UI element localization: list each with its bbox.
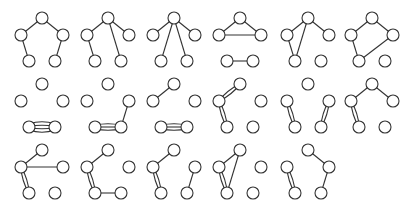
vertex-left xyxy=(81,29,93,41)
graph-10 xyxy=(213,78,267,133)
vertex-right xyxy=(123,29,135,41)
vertex-bottom-right xyxy=(49,121,61,133)
vertex-bottom-right xyxy=(315,121,327,133)
edge-top-bottom-left xyxy=(227,150,240,193)
vertex-bottom-left xyxy=(89,121,101,133)
vertex-bottom-left xyxy=(353,55,365,67)
vertex-bottom-left xyxy=(289,55,301,67)
vertex-top xyxy=(366,78,378,90)
vertex-bottom-right xyxy=(379,55,391,67)
vertex-right xyxy=(123,161,135,173)
vertex-right xyxy=(255,95,267,107)
graph-4 xyxy=(213,12,267,67)
multigraph-grid xyxy=(0,0,413,209)
vertex-left xyxy=(345,95,357,107)
vertex-bottom-left xyxy=(23,55,35,67)
vertex-top xyxy=(168,12,180,24)
vertex-bottom-right xyxy=(247,55,259,67)
graph-11 xyxy=(281,78,335,133)
vertex-bottom-left xyxy=(155,55,167,67)
vertex-bottom-right xyxy=(379,121,391,133)
vertex-left xyxy=(15,95,27,107)
vertex-top xyxy=(102,12,114,24)
vertex-bottom-right xyxy=(247,121,259,133)
vertex-bottom-left xyxy=(221,187,233,199)
graph-7 xyxy=(15,78,69,133)
vertex-left xyxy=(281,95,293,107)
vertex-left xyxy=(15,29,27,41)
vertex-bottom-left xyxy=(155,187,167,199)
vertex-bottom-right xyxy=(181,121,193,133)
graphs-layer xyxy=(15,12,399,199)
graph-1 xyxy=(15,12,69,67)
vertex-bottom-right xyxy=(181,187,193,199)
vertex-right xyxy=(323,95,335,107)
graph-3 xyxy=(147,12,201,67)
graph-14 xyxy=(81,144,135,199)
vertex-right xyxy=(123,95,135,107)
vertex-left xyxy=(81,161,93,173)
vertex-left xyxy=(213,161,225,173)
vertex-left xyxy=(345,29,357,41)
graph-13 xyxy=(15,144,69,199)
vertex-bottom-left xyxy=(23,121,35,133)
vertex-top xyxy=(302,144,314,156)
vertex-top xyxy=(302,12,314,24)
vertex-right xyxy=(387,95,399,107)
graph-15 xyxy=(147,144,201,199)
graph-12 xyxy=(345,78,399,133)
vertex-right xyxy=(189,161,201,173)
edge-top-bottom-right xyxy=(108,18,121,61)
vertex-top xyxy=(102,78,114,90)
vertex-left xyxy=(281,29,293,41)
vertex-bottom-left xyxy=(221,121,233,133)
vertex-bottom-right xyxy=(49,187,61,199)
vertex-left xyxy=(147,161,159,173)
vertex-bottom-left xyxy=(155,121,167,133)
vertex-left xyxy=(81,95,93,107)
vertex-right xyxy=(57,95,69,107)
vertex-bottom-left xyxy=(221,55,233,67)
vertex-top xyxy=(36,78,48,90)
vertex-right xyxy=(255,161,267,173)
vertex-top xyxy=(36,12,48,24)
edge-top-bottom-left xyxy=(161,18,174,61)
vertex-right xyxy=(57,161,69,173)
vertex-top xyxy=(234,144,246,156)
vertex-top xyxy=(168,144,180,156)
vertex-bottom-left xyxy=(289,187,301,199)
vertex-bottom-left xyxy=(89,187,101,199)
graph-6 xyxy=(345,12,399,67)
vertex-left xyxy=(15,161,27,173)
vertex-bottom-right xyxy=(115,121,127,133)
graph-17 xyxy=(281,144,335,199)
vertex-top xyxy=(234,12,246,24)
vertex-bottom-left xyxy=(289,121,301,133)
vertex-left xyxy=(213,95,225,107)
graph-5 xyxy=(281,12,335,67)
vertex-bottom-right xyxy=(115,55,127,67)
vertex-right xyxy=(323,29,335,41)
vertex-left xyxy=(147,29,159,41)
graph-9 xyxy=(147,78,201,133)
edge-top-bottom-left xyxy=(295,18,308,61)
vertex-right xyxy=(323,161,335,173)
vertex-bottom-right xyxy=(315,187,327,199)
vertex-bottom-left xyxy=(23,187,35,199)
vertex-right xyxy=(57,29,69,41)
edge-top-bottom-right xyxy=(174,18,187,61)
graph-16 xyxy=(213,144,267,199)
vertex-right xyxy=(189,29,201,41)
graph-8 xyxy=(81,78,135,133)
vertex-bottom-right xyxy=(315,55,327,67)
vertex-right xyxy=(255,29,267,41)
vertex-right xyxy=(387,29,399,41)
vertex-top xyxy=(168,78,180,90)
vertex-top xyxy=(366,12,378,24)
vertex-bottom-right xyxy=(115,187,127,199)
vertex-right xyxy=(189,95,201,107)
vertex-bottom-right xyxy=(181,55,193,67)
vertex-bottom-left xyxy=(89,55,101,67)
vertex-left xyxy=(213,29,225,41)
vertex-bottom-right xyxy=(247,187,259,199)
